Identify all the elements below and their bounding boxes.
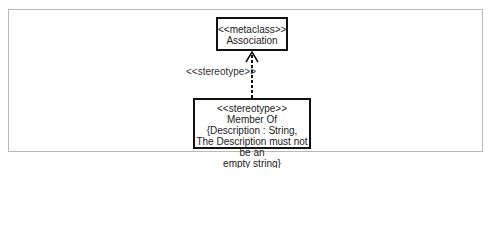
stereotype-line: empty string}	[195, 158, 309, 168]
stereotype-line: The Description must not be an	[195, 136, 309, 158]
stereotype-line: <<stereotype>>	[195, 103, 309, 114]
stereotype-line: {Description : String,	[195, 125, 309, 136]
connector-label: <<stereotype>>	[186, 66, 256, 77]
stereotype-name: Member Of	[195, 114, 309, 125]
stereotype-box: <<stereotype>> Member Of {Description : …	[193, 98, 311, 149]
